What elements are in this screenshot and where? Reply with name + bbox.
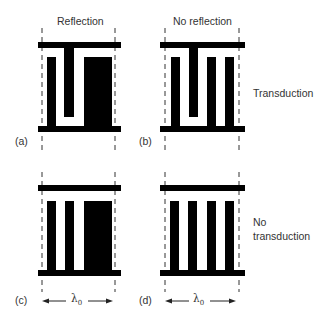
row-label-line-2: transduction (253, 229, 310, 243)
lambda-subscript: 0 (200, 299, 204, 307)
top-busbar (160, 185, 245, 191)
arrow-right-icon (229, 299, 236, 304)
bottom-finger-3 (225, 57, 234, 126)
bottom-finger-2 (207, 57, 216, 126)
row-label-no-transduction: No transduction (253, 215, 310, 243)
header-reflection: Reflection (57, 15, 104, 27)
row-label-transduction: Transduction (253, 86, 313, 100)
wavelength-label-c: λ0 (71, 292, 82, 307)
bottom-busbar (160, 270, 245, 276)
bottom-busbar (160, 126, 245, 132)
top-finger (64, 48, 74, 117)
top-busbar (160, 42, 245, 48)
panel-label-c: (c) (15, 294, 27, 306)
bottom-busbar (38, 270, 121, 276)
panel-label-d: (d) (139, 294, 152, 306)
bottom-busbar (38, 126, 121, 132)
bottom-finger (47, 57, 56, 126)
bottom-finger-1 (170, 201, 179, 270)
bottom-finger-1 (47, 201, 56, 270)
arrow-left-icon (42, 299, 49, 304)
wide-bottom-electrode (84, 57, 112, 126)
arrow-left-icon (165, 299, 172, 304)
bottom-finger-3 (207, 201, 216, 270)
panel-c-electrodes (38, 172, 121, 292)
panel-label-a: (a) (15, 135, 28, 147)
panel-a-electrodes (38, 28, 121, 150)
panel-d-electrodes (160, 172, 245, 292)
bottom-finger-2 (65, 201, 74, 270)
lambda-subscript: 0 (78, 299, 82, 307)
bottom-finger-2 (188, 201, 197, 270)
bottom-finger-1 (171, 57, 180, 126)
row-label-line-1: No (253, 215, 310, 229)
header-no-reflection: No reflection (173, 15, 232, 27)
panel-b-electrodes (160, 28, 245, 150)
lambda-symbol: λ (193, 292, 200, 304)
top-busbar (38, 42, 121, 48)
top-busbar (38, 185, 121, 191)
wide-bottom-electrode (84, 201, 112, 270)
lambda-symbol: λ (71, 292, 78, 304)
bottom-finger-4 (225, 201, 234, 270)
electrode-diagram (0, 0, 326, 326)
arrow-right-icon (106, 299, 113, 304)
top-finger (189, 48, 198, 117)
wavelength-label-d: λ0 (193, 292, 204, 307)
panel-label-b: (b) (139, 135, 152, 147)
